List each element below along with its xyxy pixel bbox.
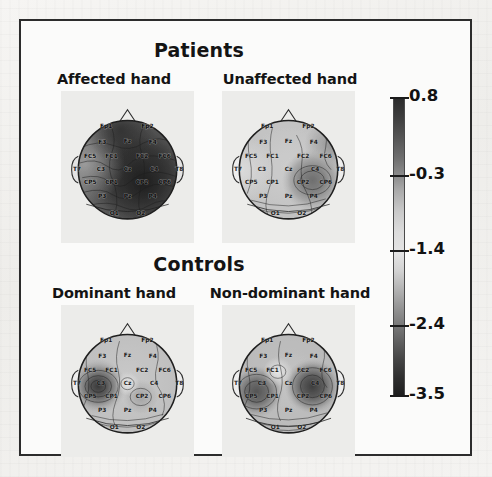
svg-text:Cz: Cz <box>285 380 293 386</box>
colorbar-tick-4 <box>390 395 409 397</box>
svg-text:Fz: Fz <box>124 352 132 358</box>
topoplot-dominant-hand: Fp1Fp2 F3FzF4 FC5FC1FC2FC6 T7C3CzC4T8 CP… <box>61 305 194 457</box>
svg-text:T7: T7 <box>234 380 242 386</box>
svg-text:CP1: CP1 <box>105 393 118 399</box>
svg-text:Fz: Fz <box>285 352 293 358</box>
topoplot-non-dominant-hand: Fp1Fp2 F3FzF4 FC5FC1FC2FC6 T7C3CzC4T8 CP… <box>222 305 355 457</box>
svg-text:CP6: CP6 <box>158 179 171 185</box>
svg-text:F4: F4 <box>149 353 157 359</box>
svg-text:O1: O1 <box>271 424 280 430</box>
svg-text:T7: T7 <box>73 166 81 172</box>
svg-text:O2: O2 <box>136 424 145 430</box>
colorbar-label-3: -2.4 <box>409 316 445 333</box>
svg-text:Fz: Fz <box>285 138 293 144</box>
colorbar-tick-2 <box>390 250 409 252</box>
section-title-controls: Controls <box>29 253 369 275</box>
topoplot-dominant-hand-svg: Fp1Fp2 F3FzF4 FC5FC1FC2FC6 T7C3CzC4T8 CP… <box>61 305 194 457</box>
colorbar-label-4: -3.5 <box>409 386 445 403</box>
svg-text:Pz: Pz <box>285 193 293 199</box>
svg-text:C4: C4 <box>150 166 158 172</box>
svg-text:P3: P3 <box>259 193 267 199</box>
svg-text:Pz: Pz <box>285 407 293 413</box>
topoplot-non-dominant-hand-svg: Fp1Fp2 F3FzF4 FC5FC1FC2FC6 T7C3CzC4T8 CP… <box>222 305 355 457</box>
svg-text:FC6: FC6 <box>320 367 332 373</box>
svg-text:FC1: FC1 <box>266 367 278 373</box>
svg-text:FC2: FC2 <box>297 367 309 373</box>
svg-text:Cz: Cz <box>124 380 132 386</box>
svg-text:Fp2: Fp2 <box>141 123 153 130</box>
panel-title-dominant-hand: Dominant hand <box>39 285 189 301</box>
panel-title-affected-hand: Affected hand <box>39 71 189 87</box>
colorbar-group: 0.8 -0.3 -1.4 -2.4 -3.5 <box>389 81 469 426</box>
svg-text:C3: C3 <box>258 166 266 172</box>
colorbar-gradient <box>393 97 405 397</box>
svg-text:Fp1: Fp1 <box>261 337 273 344</box>
svg-text:O1: O1 <box>110 210 119 216</box>
colorbar-tick-0 <box>390 97 409 99</box>
svg-text:C3: C3 <box>97 166 105 172</box>
svg-text:P4: P4 <box>310 407 318 413</box>
svg-text:P4: P4 <box>149 407 157 413</box>
svg-text:CP2: CP2 <box>297 179 310 185</box>
svg-text:CP5: CP5 <box>84 393 97 399</box>
svg-text:T8: T8 <box>336 380 344 386</box>
svg-text:T7: T7 <box>234 166 242 172</box>
svg-text:FC2: FC2 <box>297 153 309 159</box>
svg-text:P3: P3 <box>98 407 106 413</box>
topoplot-unaffected-hand: Fp1Fp2 F3FzF4 FC5FC1FC2FC6 T7C3CzC4T8 CP… <box>222 91 355 243</box>
topoplot-affected-hand: Fp1Fp2 F3FzF4 FC5FC1FC2FC6 T7C3CzC4T8 CP… <box>61 91 194 243</box>
svg-text:P4: P4 <box>310 193 318 199</box>
section-title-patients: Patients <box>29 39 369 61</box>
svg-text:CP1: CP1 <box>105 179 118 185</box>
svg-text:C3: C3 <box>258 380 266 386</box>
svg-text:FC1: FC1 <box>105 367 117 373</box>
svg-text:P3: P3 <box>259 407 267 413</box>
svg-text:CP5: CP5 <box>245 393 258 399</box>
topoplot-affected-hand-svg: Fp1Fp2 F3FzF4 FC5FC1FC2FC6 T7C3CzC4T8 CP… <box>61 91 194 243</box>
svg-text:Fp2: Fp2 <box>141 337 153 344</box>
svg-text:F3: F3 <box>98 139 106 145</box>
svg-text:O2: O2 <box>136 210 145 216</box>
svg-text:T8: T8 <box>336 166 344 172</box>
svg-text:Fp1: Fp1 <box>100 337 112 344</box>
figure-frame: Patients Controls Affected hand Unaffect… <box>19 19 472 456</box>
svg-text:CP1: CP1 <box>266 393 279 399</box>
svg-text:FC1: FC1 <box>105 153 117 159</box>
svg-text:Fz: Fz <box>124 138 132 144</box>
svg-text:FC6: FC6 <box>320 153 332 159</box>
svg-text:F4: F4 <box>310 139 318 145</box>
svg-text:CP2: CP2 <box>136 179 149 185</box>
panel-title-non-dominant-hand: Non-dominant hand <box>199 285 381 301</box>
svg-text:Fp1: Fp1 <box>100 123 112 130</box>
svg-text:F3: F3 <box>98 353 106 359</box>
panel-title-unaffected-hand: Unaffected hand <box>206 71 374 87</box>
svg-text:Pz: Pz <box>124 193 132 199</box>
svg-text:P4: P4 <box>149 193 157 199</box>
svg-text:O2: O2 <box>297 210 306 216</box>
svg-text:Fp1: Fp1 <box>261 123 273 130</box>
svg-text:C4: C4 <box>311 166 319 172</box>
colorbar-tick-3 <box>390 325 409 327</box>
svg-text:C4: C4 <box>311 380 319 386</box>
svg-text:CP6: CP6 <box>158 393 171 399</box>
colorbar-label-2: -1.4 <box>409 241 445 258</box>
svg-text:FC5: FC5 <box>245 367 257 373</box>
topoplot-unaffected-hand-svg: Fp1Fp2 F3FzF4 FC5FC1FC2FC6 T7C3CzC4T8 CP… <box>222 91 355 243</box>
svg-text:CP2: CP2 <box>297 393 310 399</box>
svg-text:CP6: CP6 <box>319 179 332 185</box>
svg-text:FC6: FC6 <box>159 367 171 373</box>
svg-text:O1: O1 <box>110 424 119 430</box>
svg-text:F4: F4 <box>310 353 318 359</box>
svg-text:O2: O2 <box>297 424 306 430</box>
svg-text:FC2: FC2 <box>136 367 148 373</box>
svg-text:Fp2: Fp2 <box>302 337 314 344</box>
svg-text:FC2: FC2 <box>136 153 148 159</box>
svg-text:CP5: CP5 <box>84 179 97 185</box>
svg-text:F4: F4 <box>149 139 157 145</box>
colorbar-label-1: -0.3 <box>409 166 445 183</box>
svg-text:F3: F3 <box>259 139 267 145</box>
svg-text:Cz: Cz <box>124 166 132 172</box>
svg-text:FC5: FC5 <box>84 367 96 373</box>
svg-text:Cz: Cz <box>285 166 293 172</box>
svg-text:T7: T7 <box>73 380 81 386</box>
